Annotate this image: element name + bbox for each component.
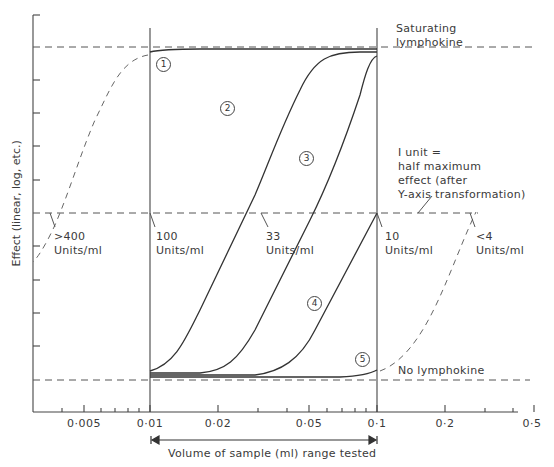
curve-2 [150, 52, 377, 371]
arrow-left-head [152, 436, 159, 444]
units-400-value: >400 [54, 230, 102, 244]
leader-400 [50, 213, 55, 227]
units-4-label: <4 Units/ml [476, 230, 524, 258]
units-10-value: 10 [385, 230, 433, 244]
leader-4 [470, 213, 475, 227]
saturating-label-line1: Saturating [396, 22, 463, 36]
units-33-unit: Units/ml [266, 244, 314, 258]
unit-def-line4: Y-axis transformation) [398, 188, 526, 202]
units-400-unit: Units/ml [54, 244, 102, 258]
units-10-label: 10 Units/ml [385, 230, 433, 258]
x-tick-0.02: 0·02 [205, 417, 232, 430]
units-4-value: <4 [476, 230, 524, 244]
curve-5-marker: 5 [355, 352, 370, 367]
y-axis-label: Effect (linear, log, etc.) [10, 147, 23, 267]
x-ticks [62, 405, 534, 412]
x-tick-0.2: 0·2 [436, 417, 455, 430]
curve-1-marker: 1 [156, 57, 171, 72]
units-33-value: 33 [266, 230, 314, 244]
units-400-label: >400 Units/ml [54, 230, 102, 258]
x-tick-0.05: 0·05 [296, 417, 323, 430]
leader-100 [150, 213, 155, 227]
units-100-value: 100 [156, 230, 204, 244]
unit-def-line2: half maximum [398, 160, 526, 174]
unit-def-line3: effect (after [398, 174, 526, 188]
x-tick-0.1: 0·1 [368, 417, 387, 430]
x-tick-0.005: 0·005 [67, 417, 101, 430]
curve-3 [150, 56, 377, 373]
saturating-label-line2: lymphokine [396, 36, 463, 50]
saturating-label: Saturating lymphokine [396, 22, 463, 50]
unit-definition-label: I unit = half maximum effect (after Y-ax… [398, 146, 526, 202]
units-100-label: 100 Units/ml [156, 230, 204, 258]
no-lymphokine-label: No lymphokine [398, 364, 485, 378]
curve-1 [150, 49, 377, 52]
units-100-unit: Units/ml [156, 244, 204, 258]
curve-3-marker: 3 [299, 151, 314, 166]
leader-10 [377, 213, 382, 227]
arrow-right-head [369, 436, 376, 444]
units-33-label: 33 Units/ml [266, 230, 314, 258]
x-tick-0.5: 0·5 [523, 417, 542, 430]
x-axis-label: Volume of sample (ml) range tested [168, 447, 376, 461]
units-10-unit: Units/ml [385, 244, 433, 258]
units-4-unit: Units/ml [476, 244, 524, 258]
leader-33 [261, 213, 268, 227]
x-tick-0.01: 0·01 [137, 417, 164, 430]
unit-def-line1: I unit = [398, 146, 526, 160]
curve-2-marker: 2 [220, 101, 235, 116]
curve-4-marker: 4 [307, 296, 322, 311]
